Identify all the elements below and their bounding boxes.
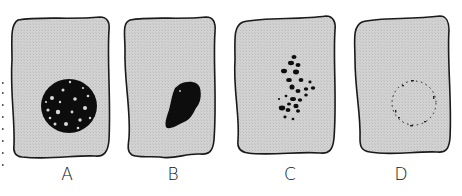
panel-label-c: C xyxy=(275,164,305,184)
panel-label-a: A xyxy=(52,164,82,184)
cell-outline-b xyxy=(124,17,215,158)
panel-label-d: D xyxy=(386,164,416,184)
edge-dotted-line xyxy=(1,82,5,170)
panel-d xyxy=(355,16,451,154)
nucleus-a xyxy=(41,79,97,133)
panel-label-b: B xyxy=(158,164,188,184)
panel-c xyxy=(235,16,336,154)
cell-outline-c xyxy=(235,16,336,154)
panel-b xyxy=(124,17,215,158)
panel-a xyxy=(12,17,110,158)
